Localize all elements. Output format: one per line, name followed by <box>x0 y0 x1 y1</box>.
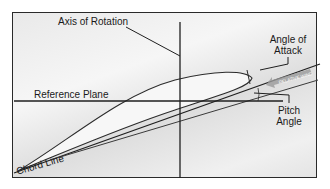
angle-of-attack-leader <box>260 57 288 70</box>
axis-of-rotation-label: Axis of Rotation <box>58 16 128 27</box>
pitch-angle-arc <box>258 88 259 101</box>
angle-of-attack-line2: Attack <box>262 45 314 56</box>
pitch-angle-line2: Angle <box>271 116 307 127</box>
relative-wind-arrow: RELATIVE WIND <box>266 69 314 88</box>
pitch-angle-line1: Pitch <box>271 105 307 116</box>
angle-of-attack-label: Angle of Attack <box>262 34 314 56</box>
axis-leader-line <box>126 27 180 56</box>
angle-of-attack-line1: Angle of <box>262 34 314 45</box>
pitch-angle-label: Pitch Angle <box>271 105 307 127</box>
reference-plane-label: Reference Plane <box>34 89 109 100</box>
